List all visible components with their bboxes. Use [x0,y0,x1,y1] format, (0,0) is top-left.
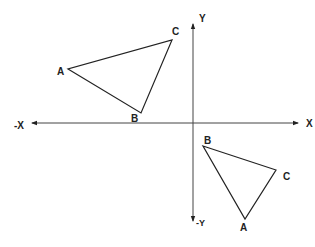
vertex-label-b: B [131,113,138,124]
y-positive-label: Y [199,13,206,24]
y-axis: Y -Y [193,13,206,228]
lower-right-triangle: B C A [203,135,290,233]
vertex-label-a: A [57,66,64,77]
x-positive-label: X [306,118,313,129]
triangle-outline [203,146,276,219]
vertex-label-b: B [204,135,211,146]
x-negative-label: -X [14,120,24,131]
triangle-outline [68,40,172,113]
vertex-label-a: A [240,222,247,233]
vertex-label-c: C [172,26,179,37]
coordinate-diagram: X -X Y -Y A B C B C A [0,0,315,247]
vertex-label-c: C [283,171,290,182]
x-axis: X -X [14,118,313,131]
y-negative-label: -Y [196,218,205,228]
upper-left-triangle: A B C [57,26,179,124]
